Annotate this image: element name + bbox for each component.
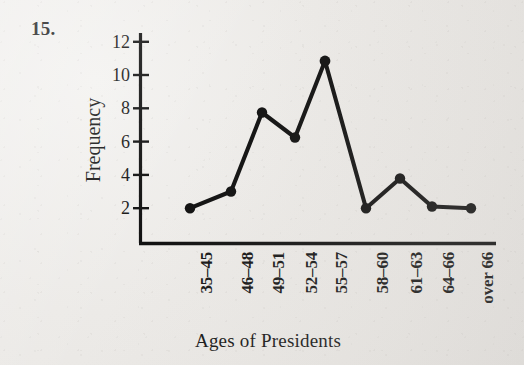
x-tick-label-7: 64–66 [439, 252, 459, 294]
y-tick-label-2: 2 [102, 198, 130, 219]
y-tick-label-8: 8 [102, 98, 130, 119]
data-point [395, 173, 405, 183]
data-point [361, 203, 371, 213]
x-tick-label-5: 58–60 [373, 252, 393, 294]
data-point [427, 201, 437, 211]
x-tick-label-8: over 66 [478, 252, 498, 304]
y-tick-label-4: 4 [102, 165, 130, 186]
y-tick-label-10: 10 [102, 65, 130, 86]
x-axis-title: Ages of Presidents [195, 330, 341, 352]
x-tick-label-6: 61–63 [407, 252, 427, 294]
y-axis-title: Frequency [82, 98, 105, 182]
data-point [185, 203, 195, 213]
chart-page: 15. 12 10 8 [0, 0, 524, 365]
x-tick-label-0: 35–45 [197, 252, 217, 294]
x-tick-label-2: 49–51 [269, 252, 289, 294]
line-chart-plot [0, 0, 524, 365]
data-point [226, 186, 236, 196]
data-point [290, 132, 300, 142]
data-point [320, 56, 331, 67]
y-tick-label-6: 6 [102, 132, 130, 153]
x-tick-label-1: 46–48 [238, 252, 258, 294]
x-tick-label-4: 55–57 [332, 252, 352, 294]
x-tick-label-3: 52–54 [302, 252, 322, 294]
data-point [257, 107, 267, 117]
y-tick-label-12: 12 [102, 32, 130, 53]
data-line-series [190, 61, 471, 208]
data-point [466, 203, 476, 213]
